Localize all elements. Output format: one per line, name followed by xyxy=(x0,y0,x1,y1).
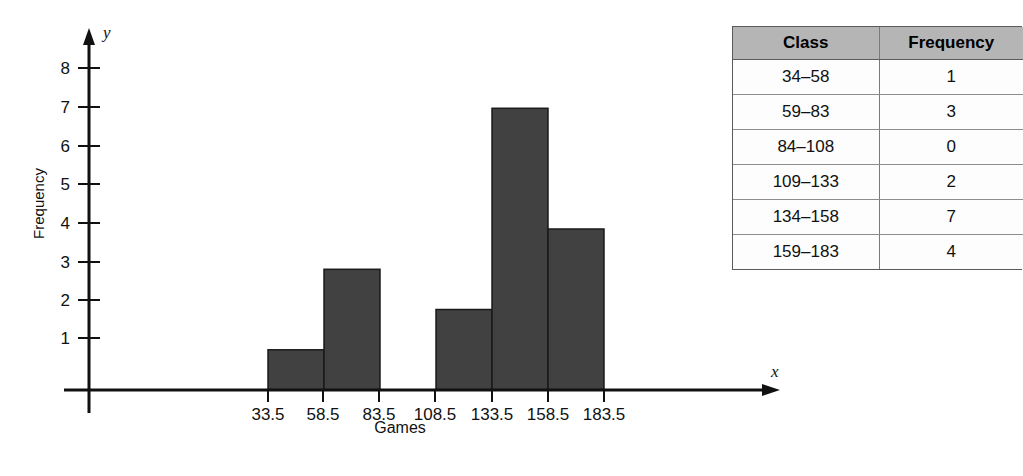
y-tick-label-1: 1 xyxy=(44,330,70,347)
cell-frequency: 4 xyxy=(879,235,1023,270)
table-row: 134–158 7 xyxy=(733,200,1023,235)
column-header-class: Class xyxy=(733,27,879,60)
cell-frequency: 1 xyxy=(879,60,1023,95)
y-tick-label-8: 8 xyxy=(44,60,70,77)
cell-class: 59–83 xyxy=(733,95,879,130)
y-tick-label-4: 4 xyxy=(44,215,70,232)
table-row: 84–108 0 xyxy=(733,130,1023,165)
cell-class: 134–158 xyxy=(733,200,879,235)
cell-frequency: 2 xyxy=(879,165,1023,200)
y-axis-variable-label: y xyxy=(103,23,111,43)
table-header-row: Class Frequency xyxy=(733,27,1023,60)
y-tick-label-7: 7 xyxy=(44,99,70,116)
table-row: 109–133 2 xyxy=(733,165,1023,200)
y-tick-label-6: 6 xyxy=(44,138,70,155)
cell-frequency: 7 xyxy=(879,200,1023,235)
table-row: 159–183 4 xyxy=(733,235,1023,270)
y-tick-label-2: 2 xyxy=(44,292,70,309)
y-axis-title: Frequency xyxy=(30,139,47,269)
y-axis-line xyxy=(83,28,95,413)
bar-134-158 xyxy=(492,108,548,390)
x-tick-label-183-5: 183.5 xyxy=(569,406,639,423)
bar-34-58 xyxy=(268,350,324,390)
cell-class: 159–183 xyxy=(733,235,879,270)
cell-frequency: 3 xyxy=(879,95,1023,130)
table-row: 34–58 1 xyxy=(733,60,1023,95)
bars-group xyxy=(268,108,604,390)
cell-class: 34–58 xyxy=(733,60,879,95)
bar-59-83 xyxy=(324,269,380,390)
cell-class: 109–133 xyxy=(733,165,879,200)
x-tick-marks xyxy=(268,390,604,402)
column-header-frequency: Frequency xyxy=(879,27,1023,60)
cell-frequency: 0 xyxy=(879,130,1023,165)
bar-159-183 xyxy=(548,229,604,390)
histogram-figure: y x 8 7 6 5 4 3 2 1 33.5 58.5 83.5 108.5… xyxy=(0,0,800,476)
table-row: 59–83 3 xyxy=(733,95,1023,130)
histogram-plot xyxy=(0,0,800,476)
x-axis-variable-label: x xyxy=(771,362,779,382)
x-axis-line xyxy=(64,384,780,396)
y-tick-label-5: 5 xyxy=(44,176,70,193)
y-tick-label-3: 3 xyxy=(44,254,70,271)
x-axis-title: Games xyxy=(330,419,470,437)
bar-109-133 xyxy=(436,310,492,391)
frequency-distribution-table: Class Frequency 34–58 1 59–83 3 84–108 0… xyxy=(732,26,1022,270)
cell-class: 84–108 xyxy=(733,130,879,165)
